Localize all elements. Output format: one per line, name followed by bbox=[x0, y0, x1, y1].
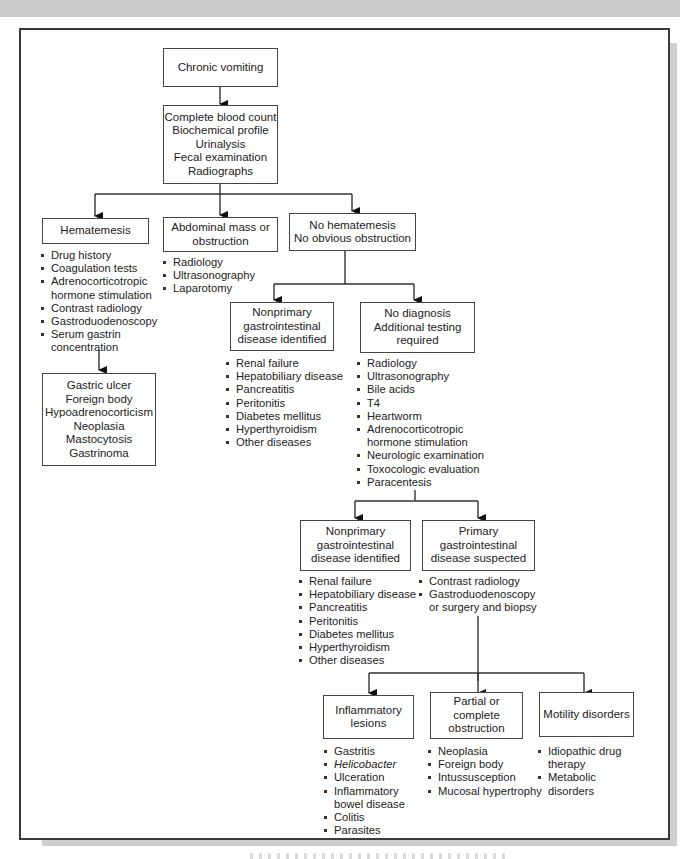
node-label: Fecal examination bbox=[165, 151, 277, 165]
node-inflammatory-lesions: Inflammatory lesions bbox=[323, 695, 414, 739]
node-label: lesions bbox=[335, 717, 401, 731]
node-label: Mastocytosis bbox=[45, 433, 153, 447]
node-label: Hematemesis bbox=[60, 224, 130, 238]
node-label: gastrointestinal bbox=[311, 539, 400, 553]
list-item: Bile acids bbox=[356, 383, 486, 396]
inflammatory-list: Gastritis Helicobacter Ulceration Inflam… bbox=[323, 745, 433, 837]
list-item: Neoplasia bbox=[427, 745, 547, 758]
node-label: Complete blood count bbox=[165, 111, 277, 125]
list-item: Mucosal hypertrophy bbox=[427, 785, 547, 798]
list-item: Contrast radiology bbox=[418, 575, 538, 588]
node-label: Nonprimary bbox=[238, 306, 327, 320]
node-label: No hematemesis bbox=[294, 219, 411, 233]
node-label: No obvious obstruction bbox=[294, 232, 411, 246]
node-label: Gastric ulcer bbox=[45, 379, 153, 393]
node-label: Motility disorders bbox=[543, 708, 629, 722]
nonprimary-2-list: Renal failure Hepatobiliary disease Panc… bbox=[298, 575, 418, 667]
node-label: required bbox=[374, 334, 462, 348]
obstruction-list: Neoplasia Foreign body Intussusception M… bbox=[427, 745, 547, 798]
list-item: Peritonitis bbox=[298, 615, 418, 628]
node-label: obstruction bbox=[171, 235, 269, 249]
node-label: Nonprimary bbox=[311, 525, 400, 539]
list-item: Idiopathic drug therapy bbox=[537, 745, 628, 771]
list-item: Gastroduodenoscopy or surgery and biopsy bbox=[418, 588, 538, 614]
node-partial-complete-obstruction: Partial or complete obstruction bbox=[430, 692, 523, 739]
additional-testing-list: Radiology Ultrasonography Bile acids T4 … bbox=[356, 357, 486, 489]
list-item: Parasites bbox=[323, 824, 433, 837]
list-item: Gastritis bbox=[323, 745, 433, 758]
list-item: Contrast radiology bbox=[40, 302, 165, 315]
primary-workup-list: Contrast radiology Gastroduodenoscopy or… bbox=[418, 575, 538, 615]
node-label: gastrointestinal bbox=[431, 539, 526, 553]
list-item: Paracentesis bbox=[356, 476, 486, 489]
list-item: Neurologic examination bbox=[356, 449, 486, 462]
list-item: Ulceration bbox=[323, 771, 433, 784]
node-label: Urinalysis bbox=[165, 138, 277, 152]
node-label: Inflammatory bbox=[335, 704, 401, 718]
node-label: disease identified bbox=[311, 552, 400, 566]
list-item: Ultrasonography bbox=[162, 269, 282, 282]
node-label: Partial or complete bbox=[431, 695, 522, 722]
truncated-caption bbox=[250, 853, 510, 859]
node-label: Chronic vomiting bbox=[178, 61, 264, 75]
node-label: Biochemical profile bbox=[165, 124, 277, 138]
list-item: Other diseases bbox=[225, 436, 355, 449]
list-item: Laparotomy bbox=[162, 282, 282, 295]
node-label: Primary bbox=[431, 525, 526, 539]
node-label: Foreign body bbox=[45, 393, 153, 407]
node-primary-gi: Primary gastrointestinal disease suspect… bbox=[422, 520, 535, 571]
node-nonprimary-gi-1: Nonprimary gastrointestinal disease iden… bbox=[230, 302, 334, 351]
node-motility-disorders: Motility disorders bbox=[539, 692, 634, 737]
nonprimary-1-list: Renal failure Hepatobiliary disease Panc… bbox=[225, 357, 355, 449]
list-item: Pancreatitis bbox=[298, 601, 418, 614]
node-label: No diagnosis bbox=[374, 307, 462, 321]
list-item: Radiology bbox=[162, 256, 282, 269]
node-initial-tests: Complete blood count Biochemical profile… bbox=[163, 105, 278, 184]
list-item: Foreign body bbox=[427, 758, 547, 771]
node-label: Hypoadrenocorticism bbox=[45, 406, 153, 420]
node-no-diagnosis: No diagnosis Additional testing required bbox=[360, 302, 475, 353]
list-item: T4 bbox=[356, 397, 486, 410]
list-item: Colitis bbox=[323, 811, 433, 824]
node-label: disease identified bbox=[238, 333, 327, 347]
node-label: Additional testing bbox=[374, 321, 462, 335]
list-item: Adrenocorticotropic hormone stimulation bbox=[356, 423, 486, 449]
list-item: Hepatobiliary disease bbox=[225, 370, 355, 383]
list-item: Diabetes mellitus bbox=[225, 410, 355, 423]
node-no-hematemesis: No hematemesis No obvious obstruction bbox=[289, 213, 416, 251]
node-label: gastrointestinal bbox=[238, 320, 327, 334]
list-item: Renal failure bbox=[298, 575, 418, 588]
list-item: Toxocologic evaluation bbox=[356, 463, 486, 476]
list-item: Coagulation tests bbox=[40, 262, 165, 275]
node-label: Gastrinoma bbox=[45, 447, 153, 461]
list-item: Adrenocorticotropic hormone stimulation bbox=[40, 275, 165, 301]
abdominal-workup-list: Radiology Ultrasonography Laparotomy bbox=[162, 256, 282, 296]
list-item: Peritonitis bbox=[225, 397, 355, 410]
list-item: Gastroduodenoscopy bbox=[40, 315, 165, 328]
list-item: Heartworm bbox=[356, 410, 486, 423]
list-item: Pancreatitis bbox=[225, 383, 355, 396]
node-abdominal-mass: Abdominal mass or obstruction bbox=[163, 217, 278, 252]
list-item: Intussusception bbox=[427, 771, 547, 784]
node-hematemesis-diagnoses: Gastric ulcer Foreign body Hypoadrenocor… bbox=[42, 373, 156, 466]
hematemesis-workup-list: Drug history Coagulation tests Adrenocor… bbox=[40, 249, 165, 355]
node-label: Neoplasia bbox=[45, 420, 153, 434]
list-item: Radiology bbox=[356, 357, 486, 370]
list-item: Serum gastrin concentration bbox=[40, 328, 165, 354]
node-label: Radiographs bbox=[165, 165, 277, 179]
list-item: Hyperthyroidism bbox=[225, 423, 355, 436]
list-item: Helicobacter bbox=[323, 758, 433, 771]
node-label: Abdominal mass or bbox=[171, 221, 269, 235]
node-hematemesis: Hematemesis bbox=[42, 218, 149, 244]
list-item: Renal failure bbox=[225, 357, 355, 370]
node-chronic-vomiting: Chronic vomiting bbox=[163, 48, 278, 87]
list-item: Drug history bbox=[40, 249, 165, 262]
list-item: Other diseases bbox=[298, 654, 418, 667]
list-item: Inflammatory bowel disease bbox=[323, 785, 424, 811]
list-item: Hepatobiliary disease bbox=[298, 588, 418, 601]
node-label: obstruction bbox=[431, 722, 522, 736]
list-item: Metabolic disorders bbox=[537, 771, 642, 797]
list-item: Hyperthyroidism bbox=[298, 641, 418, 654]
node-label: disease suspected bbox=[431, 552, 526, 566]
list-item: Diabetes mellitus bbox=[298, 628, 418, 641]
